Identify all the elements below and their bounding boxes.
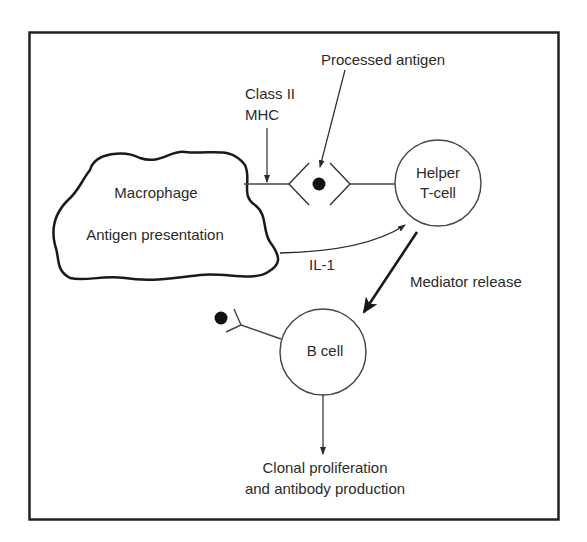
macrophage-subtitle: Antigen presentation: [86, 225, 224, 245]
macrophage-cloud: [53, 152, 278, 280]
outcome-line2: and antibody production: [245, 479, 405, 499]
helper-t-cell-line1: Helper: [416, 163, 460, 183]
antibody-receptor-icon: [226, 309, 281, 339]
mhc-label: MHC: [245, 105, 279, 125]
il1-label: IL-1: [309, 255, 335, 275]
processed-antigen-arrow: [320, 70, 345, 167]
helper-t-cell-line2: T-cell: [420, 183, 456, 203]
outcome-line1: Clonal proliferation: [262, 458, 387, 478]
mediator-release-label: Mediator release: [410, 272, 522, 292]
b-cell-label: B cell: [307, 341, 344, 361]
processed-antigen-label: Processed antigen: [321, 50, 445, 70]
class-ii-label: Class II: [245, 84, 295, 104]
il1-arrow: [280, 225, 405, 253]
antigen-dot-icon: [313, 178, 326, 191]
macrophage-title: Macrophage: [114, 183, 197, 203]
bound-antigen-dot-icon: [215, 312, 228, 325]
